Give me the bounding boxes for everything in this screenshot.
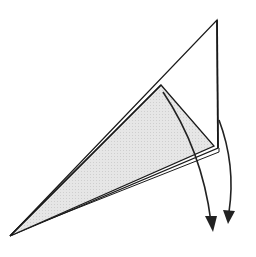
- arrowhead-icon: [223, 210, 235, 224]
- fold-arrow-outer: [219, 120, 235, 224]
- arrowhead-icon: [205, 216, 217, 232]
- right-edge: [217, 20, 218, 148]
- origami-diagram: [0, 0, 256, 257]
